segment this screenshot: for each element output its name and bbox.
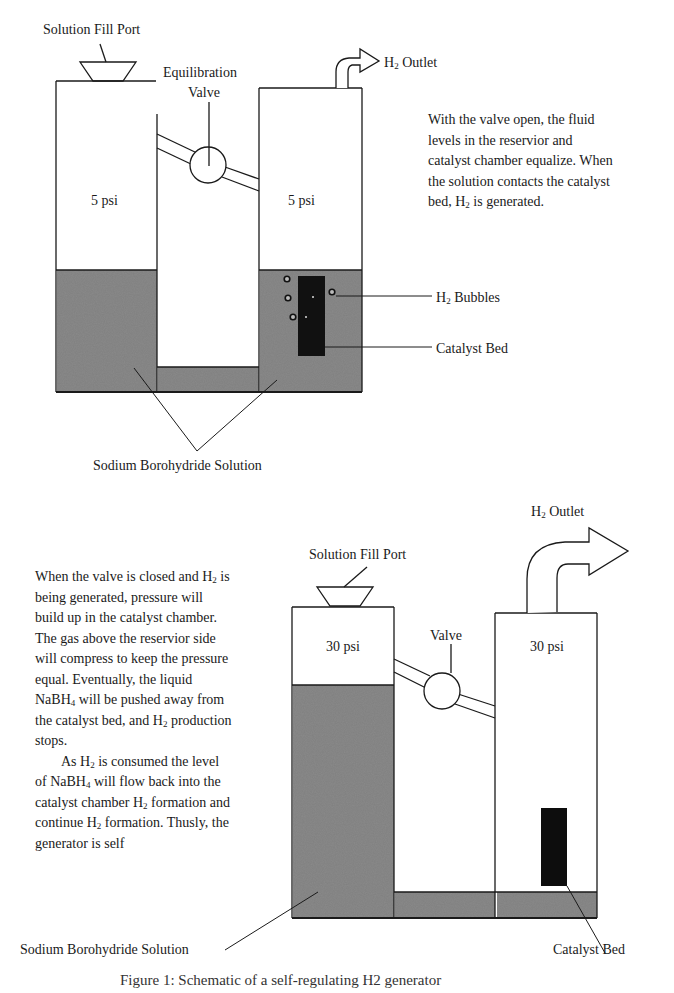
catalyst-bed-label: Catalyst Bed [436,340,508,357]
valve-label: Valve [430,627,462,644]
fill-port-funnel-icon-2 [317,587,373,606]
channel-solution-2 [395,892,495,917]
fill-port-label: Solution Fill Port [43,21,140,38]
reservoir-pressure: 5 psi [91,192,118,209]
valve-closed-description: When the valve is closed and H2 is being… [35,567,233,854]
top-diagram [56,44,432,451]
equilibration-valve-label: Equilibration [163,64,237,81]
h2-outlet-arrow-icon [336,49,379,88]
solution-label: Sodium Borohydride Solution [93,457,262,474]
reservoir-solution-2 [293,685,394,917]
h2-bubbles-label: H2 Bubbles [436,289,500,306]
equilibration-valve-label-2: Valve [188,84,220,101]
chamber-pressure: 5 psi [288,192,315,209]
h2-outlet-label: H2 Outlet [384,54,437,71]
reservoir-solution [57,270,157,392]
bottom-diagram [225,528,628,953]
catalyst-bed-2 [541,808,567,886]
catalyst-bed [298,276,325,356]
chamber-pressure-2: 30 psi [530,638,564,655]
fill-port-funnel-icon [80,62,136,81]
valve-icon [424,673,460,709]
channel-solution [158,367,259,392]
catalyst-bed-label-2: Catalyst Bed [553,941,625,958]
h2-outlet-label-2: H2 Outlet [531,503,584,520]
figure-caption: Figure 1: Schematic of a self-regulating… [120,972,441,989]
valve-open-description: With the valve open, the fluid levels in… [428,110,618,213]
equilibration-valve-icon [190,147,226,183]
fill-port-label-2: Solution Fill Port [309,546,406,563]
solution-label-2: Sodium Borohydride Solution [20,941,189,958]
h2-outlet-arrow-icon-2 [527,528,628,613]
reservoir-pressure-2: 30 psi [326,638,360,655]
